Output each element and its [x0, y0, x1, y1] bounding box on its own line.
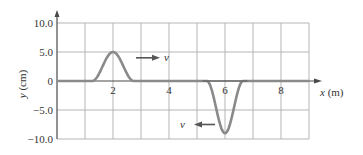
velocity-arrow-right-icon [152, 55, 160, 61]
velocity-label-left: v [180, 118, 185, 130]
x-tick-label: 2 [110, 84, 116, 96]
wave-pulse-chart: 10.05.00−5.0−10.02468 vv x (m) y (cm) [0, 0, 363, 155]
y-tick-label: 5.0 [39, 46, 53, 58]
axes [55, 10, 323, 139]
y-tick-label: −5.0 [33, 104, 53, 116]
y-axis-arrow-icon [55, 10, 60, 17]
y-tick-label: −10.0 [28, 133, 54, 145]
velocity-label-right: v [164, 51, 169, 63]
x-tick-label: 4 [166, 84, 172, 96]
y-axis-label: y (cm) [16, 69, 29, 99]
x-axis-arrow-icon [314, 79, 322, 84]
y-tick-label: 0 [48, 75, 54, 87]
y-tick-label: 10.0 [34, 17, 54, 29]
x-tick-label: 8 [278, 84, 284, 96]
velocity-annotations: vv [136, 51, 215, 130]
x-axis-label: x (m) [319, 86, 344, 99]
x-tick-label: 6 [222, 84, 228, 96]
